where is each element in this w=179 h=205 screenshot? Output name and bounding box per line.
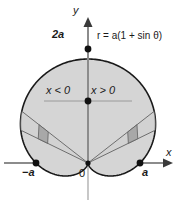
x-axis-arrowhead xyxy=(163,159,173,168)
y-axis-arrowhead xyxy=(84,17,93,27)
label-right-intercept: a xyxy=(142,167,148,178)
label-x-negative-region: x < 0 xyxy=(46,85,70,96)
label-y-axis: y xyxy=(73,5,79,16)
cardioid-diagram: 2a r = a(1 + sin θ) x < 0 x > 0 −a a 0 y… xyxy=(0,0,179,205)
point-top-2a xyxy=(85,46,92,53)
point-center xyxy=(85,98,92,105)
label-x-axis: x xyxy=(166,147,172,158)
label-equation: r = a(1 + sin θ) xyxy=(97,31,162,41)
label-left-intercept: −a xyxy=(22,167,35,178)
label-x-positive-region: x > 0 xyxy=(91,85,115,96)
label-top-value: 2a xyxy=(52,29,64,40)
point-origin-cusp xyxy=(85,160,90,165)
label-origin: 0 xyxy=(79,168,85,179)
